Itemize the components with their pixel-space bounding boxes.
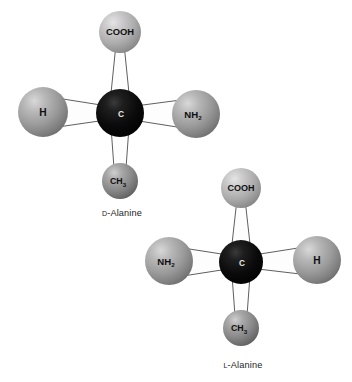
sphere-methyl xyxy=(102,163,138,199)
sphere-cooh xyxy=(99,11,141,53)
caption-l-alanine: L-Alanine xyxy=(223,360,262,370)
sphere-carbon-l xyxy=(219,240,263,284)
sphere-hydrogen-l xyxy=(293,236,341,284)
atom-ch3-d: CH3 xyxy=(102,163,138,199)
sphere-methyl-l xyxy=(223,310,259,346)
atom-h-l: H xyxy=(293,236,341,284)
atom-h-d: H xyxy=(18,87,68,137)
atom-cooh-d: COOH xyxy=(99,11,141,53)
canvas-background xyxy=(0,0,352,382)
molecule-canvas: COOH H NH2 CH3 C D-Alan xyxy=(0,0,352,382)
caption-l-name: -Alanine xyxy=(228,360,263,370)
sphere-amino-l xyxy=(145,237,193,285)
caption-d-alanine: D-Alanine xyxy=(102,208,142,218)
atom-cooh-l: COOH xyxy=(221,168,261,208)
sphere-hydrogen xyxy=(18,87,68,137)
sphere-amino xyxy=(172,90,220,138)
atom-nh2-d: NH2 xyxy=(172,90,220,138)
atom-carbon-l: C xyxy=(219,240,263,284)
sphere-cooh-l xyxy=(221,168,261,208)
atom-nh2-l: NH2 xyxy=(145,237,193,285)
atom-carbon-d: C xyxy=(96,89,144,137)
figure-root: COOH H NH2 CH3 C D-Alan xyxy=(0,0,352,382)
sphere-carbon xyxy=(96,89,144,137)
atom-ch3-l: CH3 xyxy=(223,310,259,346)
caption-d-name: -Alanine xyxy=(107,208,142,218)
